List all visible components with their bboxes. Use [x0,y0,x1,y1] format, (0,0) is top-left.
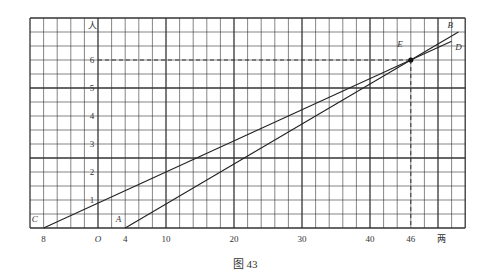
x-tick-label: 46 [406,234,416,244]
figure-43-diagram: 8O41020304046两123456人CAEBD 图 43 [0,0,490,277]
grid [30,18,465,228]
y-tick-label: 3 [90,139,95,149]
point-label-b: B [447,20,453,30]
y-tick-label: 6 [90,55,95,65]
x-tick-label: O [95,234,102,244]
x-tick-label: 20 [230,234,240,244]
x-unit-label: 两 [437,234,446,244]
x-tick-label: 8 [41,234,46,244]
x-tick-label: 4 [123,234,128,244]
figure-caption: 图 43 [233,258,258,270]
x-tick-label: 10 [162,234,172,244]
x-tick-label: 30 [298,234,308,244]
point-label-e: E [396,39,403,49]
axis-labels: 8O41020304046两123456人CAEBD [32,20,462,244]
y-tick-label: 1 [90,195,95,205]
y-tick-label: 4 [90,111,95,121]
point-label-c: C [32,214,39,224]
x-tick-label: 40 [366,234,376,244]
point-e [408,57,413,62]
y-tick-label: 5 [90,83,95,93]
point-label-d: D [454,42,462,52]
y-unit-label: 人 [88,21,97,31]
point-label-a: A [115,214,122,224]
y-tick-label: 2 [90,167,95,177]
